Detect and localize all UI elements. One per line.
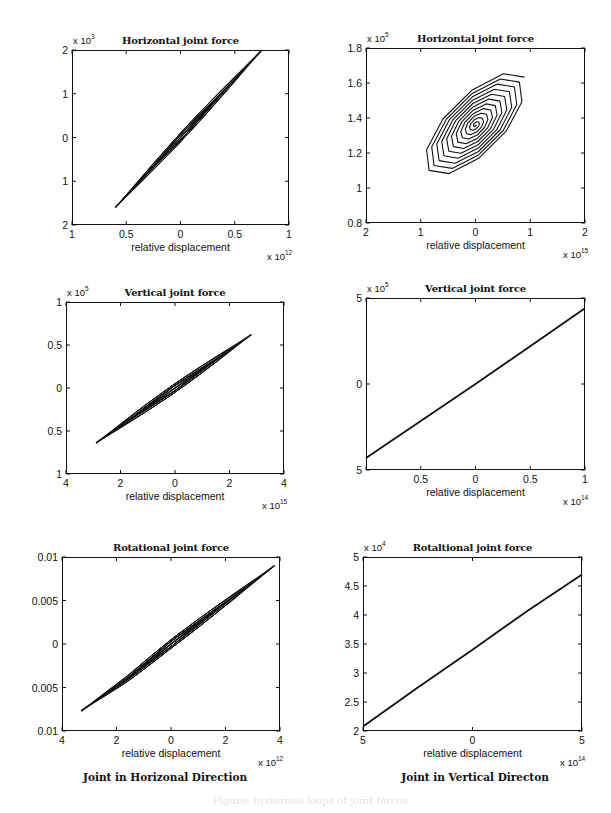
x-tick-label: 0 <box>470 734 476 746</box>
figure-caption-faint: Figure: hysteresis loops of joint forces <box>213 795 408 806</box>
multiplier-exponent: 4 <box>382 540 386 547</box>
y-tick-label: 3 <box>353 667 363 679</box>
column-caption-vertical: Joint in Vertical Directon <box>401 771 549 783</box>
multiplier-base: x 10 <box>364 542 382 553</box>
multiplier-base: x 10 <box>560 757 578 768</box>
x-tick-label: 5 <box>579 734 585 746</box>
x-axis-multiplier: x 1014 <box>560 755 585 768</box>
multiplier-exponent: 14 <box>578 755 585 762</box>
y-tick-label: 4 <box>353 609 363 621</box>
y-axis-multiplier: x 104 <box>364 540 386 553</box>
x-tick-label: 5 <box>360 734 366 746</box>
x-axis-label: relative displacement <box>423 747 522 759</box>
plot-lines <box>0 0 611 813</box>
y-tick-label: 4.5 <box>344 580 363 592</box>
y-tick-label: 2.5 <box>344 696 363 708</box>
y-tick-label: 5 <box>353 551 363 563</box>
column-caption-horizontal: Joint in Horizonal Direction <box>83 771 247 783</box>
y-tick-label: 3.5 <box>344 638 363 650</box>
